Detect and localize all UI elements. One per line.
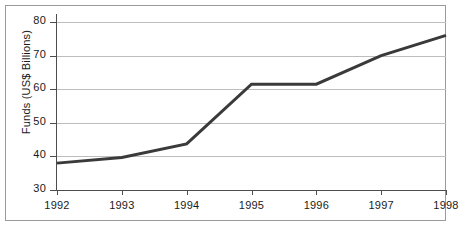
line-series-funds (57, 35, 446, 163)
